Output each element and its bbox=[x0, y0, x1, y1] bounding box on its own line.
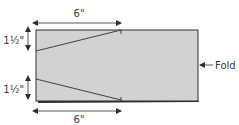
lower-height-label: 1½" bbox=[3, 84, 24, 95]
lower-height-dimension: 1½" bbox=[3, 80, 28, 99]
bottom-width-label: 6" bbox=[74, 114, 85, 125]
top-width-label: 6" bbox=[74, 8, 85, 19]
panel-rectangle bbox=[36, 30, 198, 101]
fold-callout: Fold bbox=[200, 60, 236, 71]
upper-height-dimension: 1½" bbox=[3, 31, 28, 50]
fabric-panel bbox=[36, 30, 199, 103]
top-width-dimension: 6" bbox=[37, 8, 121, 23]
fold-diagram: 6" 1½" 1½" 6" Fold bbox=[0, 0, 239, 125]
fold-label: Fold bbox=[215, 60, 236, 71]
bottom-width-dimension: 6" bbox=[37, 111, 121, 125]
upper-height-label: 1½" bbox=[3, 35, 24, 46]
